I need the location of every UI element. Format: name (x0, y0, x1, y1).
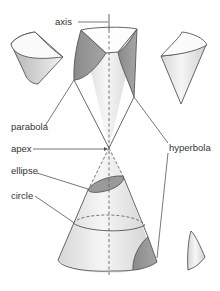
label-axis: axis (55, 17, 72, 27)
hyperbola-piece-upper (161, 32, 207, 104)
label-hyperbola: hyperbola (169, 143, 211, 153)
upper-cone (74, 27, 137, 148)
label-apex: apex (11, 144, 32, 154)
parabola-piece (11, 32, 63, 84)
conic-sections-diagram: axis parabola apex ellipse circle hyperb… (0, 0, 220, 291)
label-circle: circle (11, 191, 33, 201)
label-ellipse: ellipse (11, 166, 38, 176)
lower-cone (58, 148, 157, 273)
hyperbola-piece-lower (188, 231, 205, 270)
label-parabola: parabola (11, 122, 48, 132)
